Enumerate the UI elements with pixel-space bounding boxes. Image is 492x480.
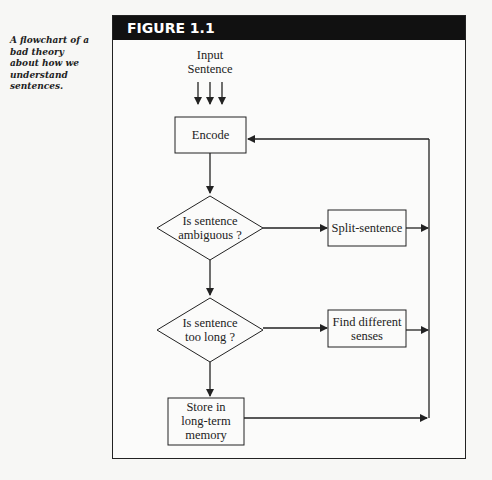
split-label: Split-sentence: [328, 221, 406, 235]
too-long-label: Is sentence too long ?: [160, 316, 260, 344]
too-long-line2: too long ?: [160, 330, 260, 344]
find-line2: senses: [328, 329, 406, 343]
input-sentence-label: Input Sentence: [170, 48, 250, 76]
find-line1: Find different: [328, 315, 406, 329]
ambiguous-line2: ambiguous ?: [160, 228, 260, 242]
store-line2: long-term: [168, 414, 244, 428]
encode-label: Encode: [175, 128, 246, 142]
too-long-line1: Is sentence: [160, 316, 260, 330]
ambiguous-label: Is sentence ambiguous ?: [160, 214, 260, 242]
input-label-line2: Sentence: [170, 62, 250, 76]
store-label: Store in long-term memory: [168, 400, 244, 442]
store-line3: memory: [168, 428, 244, 442]
ambiguous-line1: Is sentence: [160, 214, 260, 228]
input-label-line1: Input: [170, 48, 250, 62]
find-senses-label: Find different senses: [328, 315, 406, 343]
store-line1: Store in: [168, 400, 244, 414]
